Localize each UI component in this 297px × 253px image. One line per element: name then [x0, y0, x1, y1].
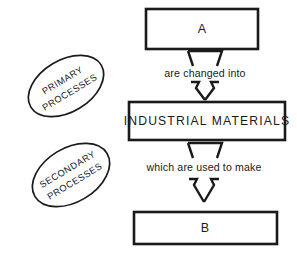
ellipse-secondary-outline — [21, 130, 121, 220]
ellipse-secondary-processes: SECONDARY PROCESSES — [21, 130, 121, 220]
diagram-canvas: PRIMARY PROCESSES SECONDARY PROCESSES A — [0, 0, 297, 253]
box-industrial-materials: INDUSTRIAL MATERIALS — [124, 102, 291, 140]
connector-1-head-left — [191, 82, 205, 100]
connector-2-label: which are used to make — [145, 161, 261, 173]
box-b-label: B — [201, 221, 210, 235]
connector-2-shaft-left — [188, 143, 193, 158]
connector-2-head-right — [204, 179, 219, 202]
connector-1-label: are changed into — [164, 67, 245, 79]
ellipse-primary-outline — [17, 43, 114, 130]
process-flow-diagram: PRIMARY PROCESSES SECONDARY PROCESSES A — [0, 0, 297, 253]
connector-1-head-right — [205, 82, 219, 100]
ellipse-primary-processes: PRIMARY PROCESSES — [17, 43, 114, 130]
box-b: B — [134, 212, 277, 244]
connector-1-shaft-left — [188, 51, 193, 66]
box-a-label: A — [198, 22, 207, 36]
box-a: A — [146, 9, 258, 49]
box-industrial-materials-label: INDUSTRIAL MATERIALS — [124, 114, 291, 128]
connector-2-head-left — [189, 179, 204, 202]
